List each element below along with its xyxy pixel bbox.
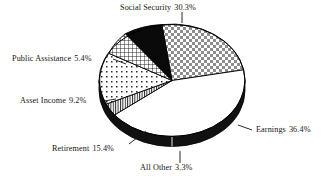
slice-label-public-assistance: Public Assistance5.4% <box>12 55 92 63</box>
slice-label-retirement: Retirement15.4% <box>52 145 114 153</box>
slice-label-retirement-text: Retirement <box>52 144 89 153</box>
slice-label-asset-income-text: Asset Income <box>20 96 66 105</box>
pie-chart-graphic <box>0 0 325 181</box>
slice-label-asset-income-value: 9.2% <box>69 96 86 105</box>
slice-label-public-assistance-text: Public Assistance <box>12 54 71 63</box>
slice-label-all-other: All Other3.3% <box>140 164 193 172</box>
slice-label-all-other-value: 3.3% <box>175 163 192 172</box>
pie-chart: Social Security30.3% Public Assistance5.… <box>0 0 325 181</box>
leader-earnings <box>238 125 252 130</box>
slice-label-social-security-text: Social Security <box>120 3 171 12</box>
slice-label-retirement-value: 15.4% <box>92 144 114 153</box>
slice-label-earnings: Earnings36.4% <box>256 126 311 134</box>
slice-label-earnings-text: Earnings <box>256 125 286 134</box>
slice-label-all-other-text: All Other <box>140 163 172 172</box>
slice-label-public-assistance-value: 5.4% <box>74 54 91 63</box>
slice-label-social-security: Social Security30.3% <box>120 4 196 12</box>
slice-label-asset-income: Asset Income9.2% <box>20 97 86 105</box>
slice-label-earnings-value: 36.4% <box>289 125 311 134</box>
slice-label-social-security-value: 30.3% <box>174 3 196 12</box>
